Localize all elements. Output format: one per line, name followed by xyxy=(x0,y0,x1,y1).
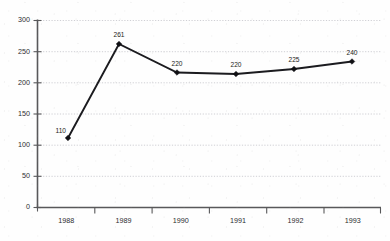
y-axis-label-100: 100 xyxy=(18,140,30,149)
x-axis-label-0: 1988 xyxy=(58,216,74,225)
x-tick-marks xyxy=(38,204,381,214)
x-axis-label-2: 1990 xyxy=(173,216,189,225)
x-axis-label-3: 1991 xyxy=(230,216,246,225)
data-point-label-3: 220 xyxy=(230,61,241,68)
x-axis-label-1: 1989 xyxy=(116,216,132,225)
x-axis-label-4: 1992 xyxy=(287,216,303,225)
y-axis-label-200: 200 xyxy=(18,78,30,87)
data-point-label-4: 225 xyxy=(288,56,299,63)
chart-plot-area: 300 250 200 150 100 50 0 1988 1989 1990 … xyxy=(0,0,390,241)
y-axis-label-250: 250 xyxy=(18,47,30,56)
y-axis-label-0: 0 xyxy=(26,202,30,211)
data-point-marker-3 xyxy=(233,71,239,77)
y-axis-label-50: 50 xyxy=(22,171,30,180)
data-point-markers xyxy=(65,41,355,141)
data-point-label-1: 261 xyxy=(113,31,124,38)
line-chart-figure: 300 250 200 150 100 50 0 1988 1989 1990 … xyxy=(0,0,390,241)
data-point-marker-4 xyxy=(291,66,297,72)
data-point-marker-5 xyxy=(349,59,355,65)
data-point-label-5: 240 xyxy=(346,49,357,56)
data-point-label-2: 220 xyxy=(171,60,182,67)
data-point-label-0: 110 xyxy=(55,127,66,134)
data-series-line xyxy=(68,44,352,138)
x-axis-label-5: 1993 xyxy=(345,216,361,225)
y-axis-label-150: 150 xyxy=(18,109,30,118)
y-axis-label-300: 300 xyxy=(18,15,30,24)
